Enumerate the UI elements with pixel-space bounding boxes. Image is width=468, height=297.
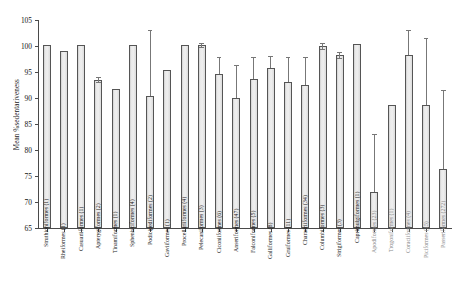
error-bar-cap <box>320 43 325 44</box>
error-bar-line <box>236 65 237 98</box>
error-bar-cap <box>303 57 308 58</box>
error-bar-line <box>408 30 409 54</box>
error-bar-line <box>219 57 220 74</box>
x-axis-tick-label: Caprimulgiformes (1) <box>354 192 360 244</box>
error-bar-line <box>305 57 306 85</box>
y-axis-label: Mean %sedentariveness <box>13 79 21 150</box>
error-bar-cap <box>199 43 204 44</box>
bar <box>163 70 171 228</box>
error-bar-cap <box>234 65 239 66</box>
error-bar-cap-lower <box>320 49 325 50</box>
bar <box>112 89 120 228</box>
error-bar-cap <box>424 38 429 39</box>
x-axis-tick-label: Pelecaniformes (3) <box>198 206 204 251</box>
error-bar-cap-lower <box>337 58 342 59</box>
x-axis-tick-label: Falconiformes (5) <box>250 210 256 252</box>
error-bar-cap <box>148 30 153 31</box>
x-axis-tick-label: Gaviiformes (1) <box>164 219 170 257</box>
x-axis-tick-label: Charadriiformes (34) <box>302 195 308 245</box>
x-axis-tick-label: Piciformes (15) <box>423 221 429 258</box>
bar <box>319 46 327 228</box>
error-bar-cap-lower <box>199 47 204 48</box>
y-axis-tick-label: 105 <box>12 16 32 25</box>
x-axis-tick-label: Tinamiformes (1) <box>112 212 118 254</box>
x-axis-tick-label: Passeriformes (272) <box>440 200 446 247</box>
y-axis-tick-label: 100 <box>12 42 32 51</box>
y-axis-tick-label: 85 <box>12 120 32 129</box>
error-bar-cap <box>337 52 342 53</box>
error-bar-line <box>150 30 151 96</box>
bar <box>336 55 344 228</box>
x-axis-tick-label: Procellariiformes (4) <box>181 197 187 246</box>
error-bar-cap <box>217 57 222 58</box>
x-axis-tick-label: Anseriformes (47) <box>233 208 239 251</box>
error-bar-cap <box>441 90 446 91</box>
x-axis-tick-label: Ciconiiformes (6) <box>216 211 222 253</box>
bar <box>198 45 206 228</box>
bar-chart: Mean %sedentariveness 657075808590951001… <box>0 0 468 297</box>
error-bar-line <box>270 56 271 67</box>
error-bar-cap <box>96 77 101 78</box>
x-axis-tick-label: Galliformes (8) <box>267 222 273 258</box>
x-axis-tick-label: Sphenisciformes (4) <box>129 200 135 248</box>
error-bar-line <box>443 90 444 169</box>
x-axis-tick-label: Casuariiformes (1) <box>78 206 84 250</box>
error-bar-cap <box>406 30 411 31</box>
error-bar-line <box>288 57 289 82</box>
x-axis-tick-label: Columbiformes (3) <box>319 204 325 249</box>
bar <box>405 55 413 228</box>
y-axis-tick-label: 65 <box>12 224 32 233</box>
y-axis-tick-label: 80 <box>12 146 32 155</box>
bar <box>267 68 275 228</box>
x-axis-tick-label: Trogoniformes (1) <box>388 208 394 251</box>
y-axis-line <box>38 20 39 228</box>
bar <box>60 51 68 228</box>
x-axis-tick-label: Strigiformes (3) <box>336 219 342 257</box>
x-axis-tick-label: Apterygiformes (2) <box>95 204 101 250</box>
error-bar-cap <box>372 134 377 135</box>
y-axis-tick-label: 70 <box>12 198 32 207</box>
bar <box>77 45 85 228</box>
bar <box>422 105 430 228</box>
x-axis-tick-label: Coraciiformes (4) <box>405 211 411 253</box>
y-axis-tick-label: 90 <box>12 94 32 103</box>
bar <box>215 74 223 228</box>
y-axis-tick-label: 95 <box>12 68 32 77</box>
bar <box>284 82 292 228</box>
y-axis-tick-label: 75 <box>12 172 32 181</box>
x-axis-tick-label: Rheiformes (1) <box>60 223 66 259</box>
y-axis-label-container: Mean %sedentariveness <box>8 0 26 230</box>
error-bar-line <box>374 134 375 191</box>
error-bar-cap <box>251 57 256 58</box>
error-bar-cap <box>268 56 273 57</box>
error-bar-cap-lower <box>96 82 101 83</box>
x-axis-tick-label: Podicipediformes (2) <box>147 195 153 245</box>
x-axis-tick-label: Struthioniformes (1) <box>43 198 49 246</box>
x-axis-tick-label: Gruiformes (11) <box>285 219 291 257</box>
error-bar-line <box>426 38 427 105</box>
x-axis-tick-label: Apodiformes (23) <box>371 210 377 252</box>
error-bar-line <box>253 57 254 79</box>
error-bar-cap <box>286 57 291 58</box>
bar <box>250 79 258 228</box>
